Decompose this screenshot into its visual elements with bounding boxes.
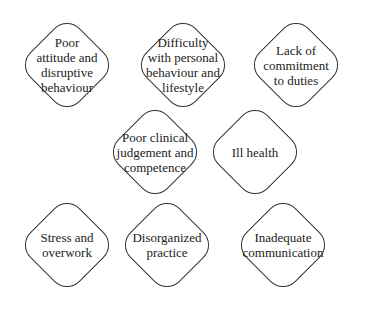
node-label: Disorganized practice	[117, 195, 217, 295]
node-label: Difficulty with personal behaviour and l…	[133, 15, 233, 115]
node-lack-of-commitment: Lack of commitment to duties	[246, 15, 346, 115]
node-label: Stress and overwork	[17, 195, 117, 295]
node-clinical-judgement: Poor clinical judgement and competence	[105, 102, 205, 202]
node-ill-health: Ill health	[205, 102, 305, 202]
node-poor-attitude: Poor attitude and disruptive behaviour	[17, 15, 117, 115]
node-stress-overwork: Stress and overwork	[17, 195, 117, 295]
node-label: Poor clinical judgement and competence	[105, 102, 205, 202]
node-personal-behaviour: Difficulty with personal behaviour and l…	[133, 15, 233, 115]
node-label: Lack of commitment to duties	[246, 15, 346, 115]
node-label: Poor attitude and disruptive behaviour	[17, 15, 117, 115]
node-label: Ill health	[205, 102, 305, 202]
node-inadequate-communication: Inadequate communication	[233, 195, 333, 295]
node-disorganized-practice: Disorganized practice	[117, 195, 217, 295]
node-label: Inadequate communication	[233, 195, 333, 295]
